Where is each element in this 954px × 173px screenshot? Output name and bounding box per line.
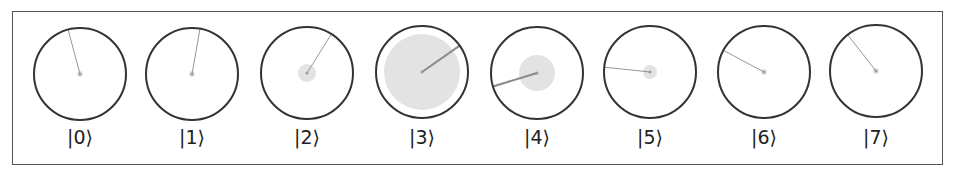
state-circle-1 (146, 28, 238, 120)
circle-notation-diagram (0, 0, 954, 173)
center-dot (763, 71, 766, 74)
state-circle-0 (34, 28, 126, 120)
state-label-7: |7⟩ (846, 125, 906, 149)
center-dot (875, 70, 878, 73)
state-circle-4 (491, 27, 583, 119)
phase-line (307, 34, 331, 73)
state-label-1: |1⟩ (162, 125, 222, 149)
state-label-4: |4⟩ (507, 125, 567, 149)
phase-line (68, 30, 80, 74)
center-dot (79, 73, 82, 76)
phase-line (192, 29, 200, 74)
state-label-6: |6⟩ (734, 125, 794, 149)
state-circle-5 (604, 26, 696, 118)
phase-line (848, 35, 876, 71)
state-circle-2 (261, 27, 353, 119)
center-dot (649, 71, 652, 74)
center-dot (306, 72, 309, 75)
state-circle-3 (376, 26, 468, 118)
center-dot (536, 72, 539, 75)
state-label-5: |5⟩ (620, 125, 680, 149)
center-dot (191, 73, 194, 76)
state-label-2: |2⟩ (277, 125, 337, 149)
state-label-3: |3⟩ (392, 125, 452, 149)
phase-line (604, 67, 650, 72)
state-circle-7 (830, 25, 922, 117)
phase-line (723, 50, 764, 72)
center-dot (421, 71, 424, 74)
state-label-0: |0⟩ (50, 125, 110, 149)
state-circle-6 (718, 26, 810, 118)
